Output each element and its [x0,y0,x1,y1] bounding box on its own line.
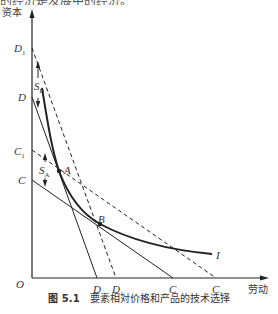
x-axis-arrow-icon [260,276,269,281]
origin-label: O [16,278,24,290]
curve-I-label: I [215,249,221,261]
figure-caption: 图 5.1要素相对价格和产品的技术选择 [0,290,278,305]
arrow-up-icon [36,61,40,68]
y-label-C: C [18,174,26,186]
y-label-C1: C1 [14,145,25,160]
y-label-D: D [17,91,26,103]
figure-title: 要素相对价格和产品的技术选择 [90,293,230,304]
line-DD [32,97,97,278]
figure-number: 图 5.1 [48,293,79,304]
arrow-down-icon [36,101,40,108]
line-CC [32,180,173,278]
line-D1D1 [32,48,116,278]
SB-label: SB [34,80,45,95]
point-A [57,169,61,173]
y-axis-label: 资本 [2,6,22,18]
y-axis-arrow-icon [30,9,35,18]
y-label-D1: D1 [13,42,26,57]
arrow-down-icon [43,180,47,187]
arrow-up-icon [43,153,47,160]
point-A-label: A [63,164,71,176]
isoquant-diagram: 资本 劳动 O A B I D1 D C1 C D D1 C C1 SB SA [0,0,278,314]
SA-label: SA [39,164,50,179]
axes [30,9,270,281]
point-B-label: B [98,213,105,225]
